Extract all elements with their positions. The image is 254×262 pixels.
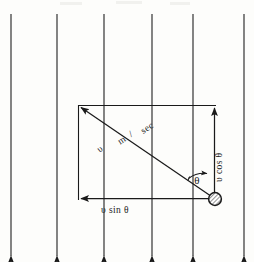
vertical-component-label: υ cos θ — [214, 152, 224, 182]
angle-tick — [188, 177, 190, 181]
angle-label-theta: θ — [194, 174, 200, 186]
resultant-label-slash: / — [127, 129, 135, 139]
resultant-label-sec: sec — [139, 120, 156, 136]
horizontal-component-label: υ sin θ — [101, 205, 129, 215]
field-lines-group — [11, 14, 244, 256]
resultant-label-m: m — [116, 134, 128, 147]
resultant-label-v: υ — [95, 143, 105, 154]
diagram-canvas: υ m / sec υ cos θ υ sin θ θ — [0, 0, 254, 262]
particle-ball — [209, 193, 222, 206]
physics-vector-diagram: υ m / sec υ cos θ υ sin θ θ — [0, 0, 254, 262]
